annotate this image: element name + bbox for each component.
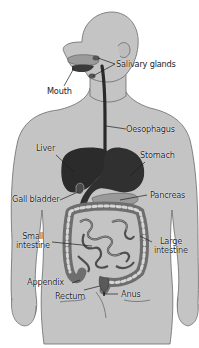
label-mouth: Mouth [47,87,72,96]
salivary-gland-lower [89,74,96,79]
label-salivary-glands: Salivary glands [116,60,176,69]
label-pancreas: Pancreas [150,191,185,200]
label-liver: Liver [36,144,55,153]
label-appendix: Appendix [27,278,64,287]
label-gall-bladder: Gall bladder [12,195,59,204]
label-stomach: Stomach [140,151,175,160]
digestive-system-diagram [0,0,199,348]
label-rectum: Rectum [55,292,85,301]
label-small-intestine-line2: intestine [15,241,51,250]
label-oesophagus: Oesophagus [126,125,175,134]
label-large-intestine-line2: intestine [153,246,189,255]
label-anus: Anus [121,290,140,299]
